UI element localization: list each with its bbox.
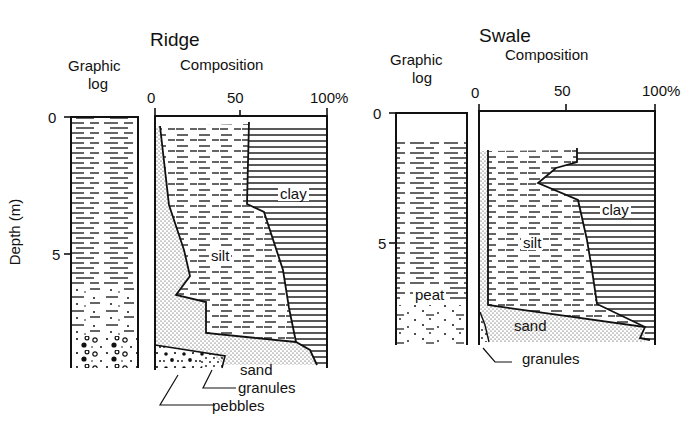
swale-sand-label: sand	[514, 318, 547, 333]
ridge-depth-tick-5: 5	[52, 247, 60, 262]
swale-x-tick-0: 0	[471, 85, 479, 100]
ridge-log-header-line2: log	[88, 76, 108, 91]
swale-log-header-line1: Graphic	[390, 52, 443, 67]
y-axis-label: Depth (m)	[6, 199, 23, 266]
swale-x-tick-50: 50	[554, 83, 571, 98]
ridge-composition-column	[155, 108, 327, 370]
swale-silt-label: silt	[521, 235, 543, 250]
ridge-pebbles-label: pebbles	[212, 398, 265, 413]
swale-clay-label: clay	[600, 202, 631, 217]
swale-graphic-log	[389, 113, 467, 345]
swale-composition-header: Composition	[505, 47, 588, 62]
swale-composition-column	[479, 104, 655, 345]
ridge-granules-label: granules	[238, 380, 296, 395]
ridge-composition-header: Composition	[180, 57, 263, 72]
ridge-x-tick-0: 0	[147, 90, 155, 105]
ridge-log-header-line1: Graphic	[68, 58, 121, 73]
ridge-panel	[64, 108, 327, 405]
swale-depth-tick-5: 5	[378, 236, 386, 251]
ridge-x-tick-50: 50	[227, 90, 244, 105]
swale-depth-tick-0: 0	[373, 106, 381, 121]
swale-title: Swale	[479, 26, 531, 45]
swale-peat-label: peat	[413, 287, 446, 302]
ridge-graphic-log	[64, 117, 138, 368]
swale-x-tick-100: 100%	[642, 83, 680, 98]
ridge-title: Ridge	[150, 30, 200, 49]
ridge-x-tick-100: 100%	[310, 90, 348, 105]
swale-log-header-line2: log	[412, 70, 432, 85]
ridge-silt-label: silt	[209, 248, 231, 263]
ridge-sand-label: sand	[240, 362, 273, 377]
swale-granules-label: granules	[522, 351, 580, 366]
ridge-depth-tick-0: 0	[48, 110, 56, 125]
ridge-clay-label: clay	[278, 186, 309, 201]
